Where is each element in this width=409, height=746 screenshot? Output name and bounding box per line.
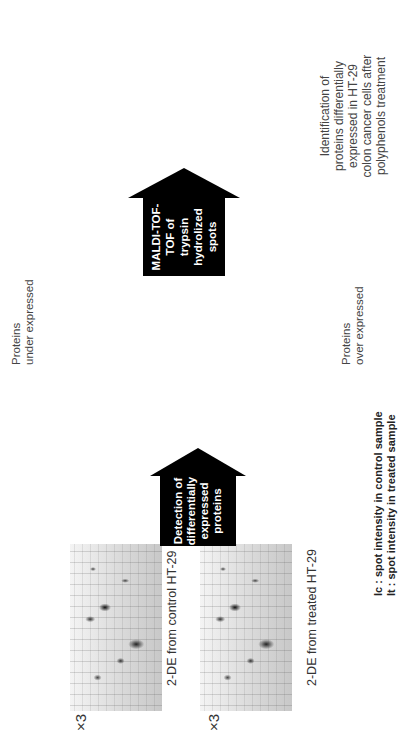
identification-line: colon cancer cells after	[360, 6, 374, 226]
over-expressed-label: Proteins over expressed	[340, 245, 366, 365]
over-expressed-line: Proteins	[340, 245, 353, 365]
maldi-arrow-line: MALDI-TOF-	[149, 204, 163, 271]
detection-arrow-line: differentially	[185, 477, 198, 545]
over-expressed-line: over expressed	[353, 245, 366, 365]
arrow-head-icon	[128, 168, 240, 198]
under-expressed-line: Proteins	[10, 245, 23, 365]
identification-line: polyphenols treatment	[374, 6, 388, 226]
identification-text: Identification of proteins differentiall…	[318, 6, 388, 226]
gel-control-magnification: ×3	[72, 714, 89, 731]
detection-arrow-line: Detection of	[172, 478, 185, 544]
maldi-tof-arrow: MALDI-TOF- TOF of trypsin hydrolized spo…	[128, 166, 240, 276]
maldi-arrow-line: TOF of trypsin	[163, 198, 191, 276]
maldi-arrow-line: hydrolized spots	[191, 198, 219, 276]
identification-line: proteins differentially	[332, 6, 346, 226]
gel-treated-caption: 2-DE from treated HT-29	[305, 549, 319, 686]
detection-arrow: Detection of differentially expressed pr…	[150, 446, 246, 546]
detection-arrow-line: proteins	[211, 488, 224, 533]
gel-treated-magnification: ×3	[205, 714, 222, 731]
gel-control-image	[70, 544, 162, 711]
identification-line: Identification of	[318, 6, 332, 226]
arrow-head-icon	[150, 448, 246, 476]
legend-ic: Ic : spot intensity in control sample	[372, 411, 385, 596]
legend-it: It : spot intensity in treated sample	[385, 411, 398, 596]
under-expressed-line: under expressed	[23, 245, 36, 365]
identification-line: expressed in HT-29	[346, 6, 360, 226]
workflow-diagram: ×3 2-DE from control HT-29 ×3 2-DE from …	[0, 0, 409, 746]
gel-treated-image	[200, 544, 292, 711]
detection-arrow-line: expressed	[198, 483, 211, 540]
gel-control-caption: 2-DE from control HT-29	[165, 551, 179, 686]
intensity-legend: Ic : spot intensity in control sample It…	[372, 411, 398, 596]
under-expressed-label: Proteins under expressed	[10, 245, 36, 365]
